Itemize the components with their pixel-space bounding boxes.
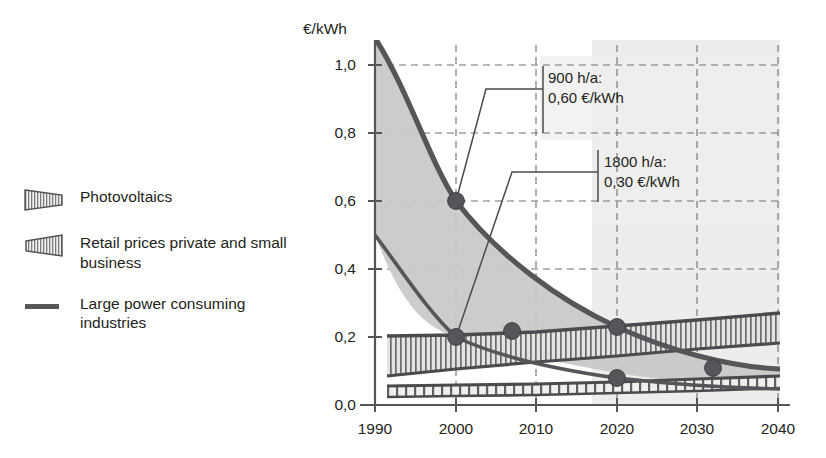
plot-area: €/kWh 1,0 0,8 0,6 0,4 0,2 0,0 1990 2000 … — [0, 0, 826, 458]
annotation-900ha: 900 h/a: 0,60 €/kWh — [548, 68, 624, 107]
marker-2020-lower — [609, 370, 626, 387]
marker-2000-060 — [448, 193, 465, 210]
marker-parity-2032 — [705, 360, 722, 377]
annotation-1800ha: 1800 h/a: 0,30 €/kWh — [604, 152, 680, 191]
marker-2000-030 — [448, 329, 465, 346]
marker-parity-2007 — [504, 323, 521, 340]
grid-parity-chart-figure: Photovoltaics Retail prices private and … — [0, 0, 826, 458]
marker-parity-2020 — [609, 319, 626, 336]
chart-canvas — [0, 0, 826, 458]
